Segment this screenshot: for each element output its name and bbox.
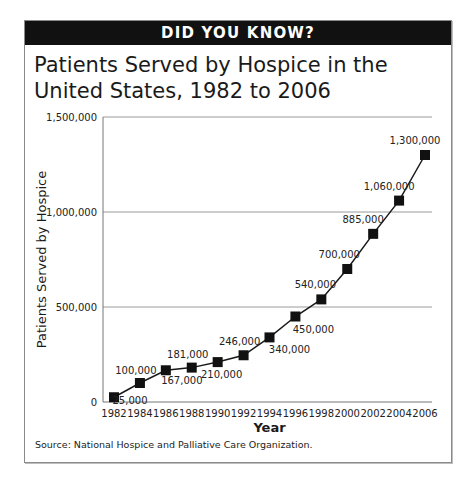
data-point-marker — [265, 332, 275, 342]
line-chart: 0500,0001,000,0001,500,00019821984198619… — [0, 0, 473, 486]
data-point-marker — [161, 365, 171, 375]
data-label: 1,060,000 — [364, 181, 415, 192]
data-point-marker — [239, 350, 249, 360]
data-label: 210,000 — [201, 369, 242, 380]
data-label: 450,000 — [293, 324, 334, 335]
data-label: 246,000 — [219, 336, 260, 347]
x-tick-label: 1994 — [257, 408, 282, 419]
x-tick-label: 2006 — [412, 408, 437, 419]
data-label: 167,000 — [161, 375, 202, 386]
data-label: 700,000 — [319, 249, 360, 260]
x-tick-label: 1992 — [231, 408, 256, 419]
data-label: 340,000 — [269, 344, 310, 355]
data-point-marker — [290, 312, 300, 322]
data-point-marker — [135, 378, 145, 388]
x-tick-label: 2004 — [386, 408, 411, 419]
x-tick-label: 1998 — [309, 408, 334, 419]
x-tick-label: 2002 — [360, 408, 385, 419]
data-label: 540,000 — [295, 279, 336, 290]
data-point-marker — [420, 150, 430, 160]
y-axis-title: Patients Served by Hospice — [34, 171, 49, 348]
data-label: 885,000 — [342, 214, 383, 225]
data-point-marker — [187, 363, 197, 373]
x-tick-label: 1982 — [101, 408, 126, 419]
data-label: 25,000 — [113, 395, 148, 406]
x-tick-label: 2000 — [335, 408, 360, 419]
data-point-marker — [342, 264, 352, 274]
data-point-marker — [316, 294, 326, 304]
data-point-marker — [213, 357, 223, 367]
x-tick-label: 1996 — [283, 408, 308, 419]
x-tick-label: 1990 — [205, 408, 230, 419]
x-axis-title: Year — [252, 420, 286, 435]
y-tick-label: 1,500,000 — [46, 112, 97, 123]
data-point-marker — [394, 196, 404, 206]
x-tick-label: 1988 — [179, 408, 204, 419]
data-label: 100,000 — [115, 365, 156, 376]
x-tick-label: 1984 — [127, 408, 152, 419]
data-label: 181,000 — [167, 349, 208, 360]
data-point-marker — [368, 229, 378, 239]
y-tick-label: 1,000,000 — [46, 207, 97, 218]
x-tick-label: 1986 — [153, 408, 178, 419]
y-tick-label: 0 — [91, 397, 97, 408]
y-tick-label: 500,000 — [56, 302, 97, 313]
data-label: 1,300,000 — [390, 135, 441, 146]
